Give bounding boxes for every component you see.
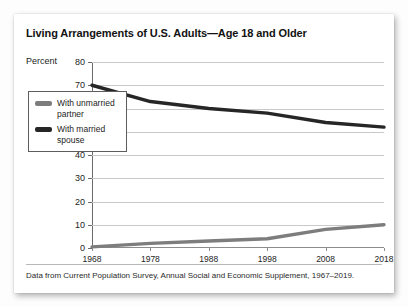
legend-swatch-icon bbox=[35, 101, 52, 106]
page-title: Living Arrangements of U.S. Adults—Age 1… bbox=[26, 27, 307, 39]
x-tick-label: 1978 bbox=[141, 254, 160, 264]
x-tick-label: 2008 bbox=[316, 254, 335, 264]
y-tick-label: 10 bbox=[75, 220, 85, 229]
y-axis-unit-label: Percent bbox=[26, 56, 57, 66]
y-tick-label: 20 bbox=[75, 197, 85, 206]
x-tick-label: 1998 bbox=[258, 254, 277, 264]
y-tick-label: 70 bbox=[75, 81, 85, 90]
legend-label: With married spouse bbox=[57, 124, 121, 145]
x-tick-mark bbox=[150, 248, 151, 251]
y-tick-label: 80 bbox=[75, 58, 85, 67]
legend-item-unmarried-partner: With unmarried partner bbox=[35, 98, 121, 119]
x-tick-mark bbox=[209, 248, 210, 251]
x-tick-label: 2018 bbox=[375, 254, 394, 264]
legend-item-married-spouse: With married spouse bbox=[35, 124, 121, 145]
x-tick-mark bbox=[326, 248, 327, 251]
series-line bbox=[92, 225, 384, 247]
x-tick-label: 1988 bbox=[199, 254, 218, 264]
data-series-lines bbox=[92, 62, 384, 248]
y-tick-label: 30 bbox=[75, 174, 85, 183]
chart-legend: With unmarried partner With married spou… bbox=[28, 91, 127, 152]
y-tick-label: 0 bbox=[80, 244, 85, 253]
x-tick-label: 1968 bbox=[83, 254, 102, 264]
chart-card: Living Arrangements of U.S. Adults—Age 1… bbox=[14, 14, 394, 293]
source-note: Data from Current Population Survey, Ann… bbox=[26, 271, 354, 280]
legend-swatch-icon bbox=[35, 127, 52, 132]
x-tick-mark bbox=[267, 248, 268, 251]
x-tick-mark bbox=[384, 248, 385, 251]
plot-area: 01020304050607080 1968197819881998200820… bbox=[92, 62, 384, 248]
footnote-divider bbox=[26, 264, 382, 265]
legend-label: With unmarried partner bbox=[57, 98, 121, 119]
series-line bbox=[92, 85, 384, 127]
